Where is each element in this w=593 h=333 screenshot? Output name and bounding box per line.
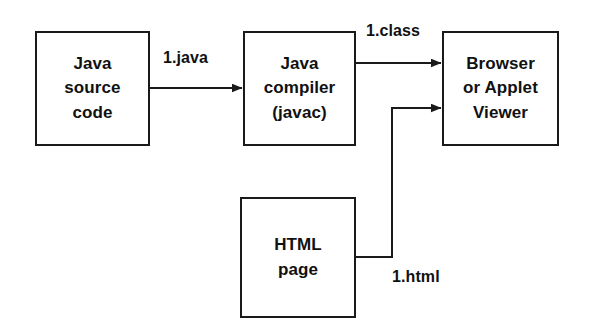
node-java-source-code-label: Java source code [64, 52, 120, 124]
edge-label-java: 1.java [163, 49, 208, 67]
edge-label-html: 1.html [392, 268, 440, 286]
node-html-page: HTML page [240, 197, 356, 318]
node-browser-or-applet-viewer: Browser or Applet Viewer [442, 31, 559, 146]
node-browser-or-applet-viewer-label: Browser or Applet Viewer [463, 52, 538, 124]
node-java-compiler: Java compiler (javac) [243, 31, 356, 146]
node-java-source-code: Java source code [35, 31, 150, 146]
diagram-canvas: Java source code Java compiler (javac) B… [0, 0, 593, 333]
edge-html-arrow [356, 108, 441, 257]
node-java-compiler-label: Java compiler (javac) [264, 52, 336, 124]
edge-label-class: 1.class [366, 22, 420, 40]
node-html-page-label: HTML page [274, 233, 322, 281]
